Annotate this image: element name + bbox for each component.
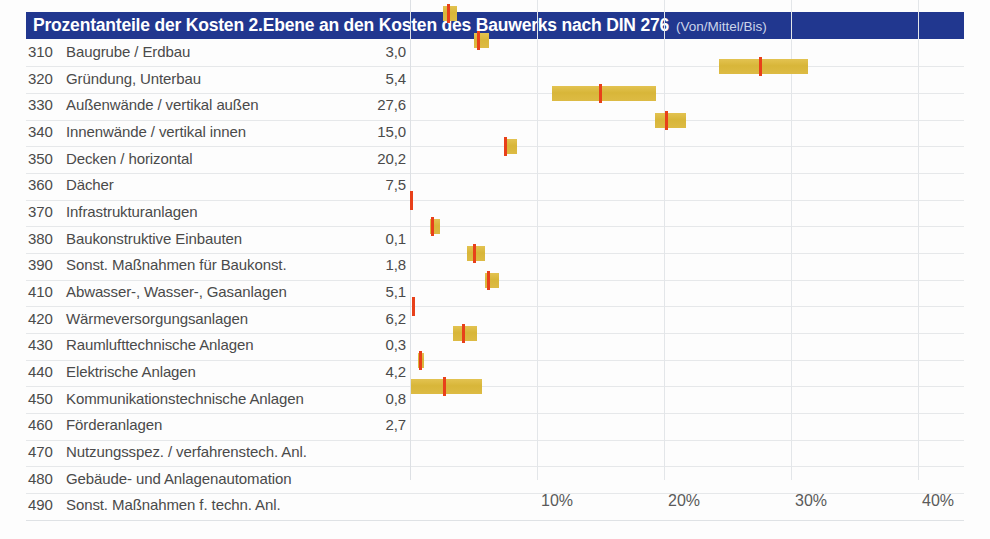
gridline-10 [537, 0, 538, 480]
row-label: Sonst. Maßnahmen f. techn. Anl. [66, 496, 281, 513]
axis-zero-line [410, 0, 411, 480]
mid-marker [410, 191, 413, 210]
gridline-20 [664, 0, 665, 480]
mid-marker [759, 57, 762, 76]
row-code: 430 [28, 336, 62, 353]
x-tick-label: 20% [668, 492, 700, 510]
range-bar [453, 326, 477, 341]
row-code: 350 [28, 150, 62, 167]
row-code: 460 [28, 416, 62, 433]
row-label: Nutzungsspez. / verfahrenstech. Anl. [66, 443, 307, 460]
plot-area [384, 0, 938, 480]
mid-marker [443, 377, 446, 396]
row-label: Wärmeversorgungsanlagen [66, 310, 248, 327]
row-code: 310 [28, 43, 62, 60]
row-label: Sonst. Maßnahmen für Baukonst. [66, 256, 286, 273]
row-code: 390 [28, 256, 62, 273]
mid-marker [487, 271, 490, 290]
mid-marker [419, 351, 422, 370]
row-code: 420 [28, 310, 62, 327]
row-code: 450 [28, 390, 62, 407]
range-bar [719, 59, 808, 74]
mid-marker [431, 217, 434, 236]
row-code: 320 [28, 70, 62, 87]
range-bar [474, 33, 489, 48]
row-code: 490 [28, 496, 62, 513]
row-label: Abwasser-, Wasser-, Gasanlagen [66, 283, 287, 300]
chart-page: Prozentanteile der Kosten 2.Ebene an den… [0, 0, 990, 539]
row-code: 330 [28, 96, 62, 113]
mid-marker [665, 111, 668, 130]
row-code: 440 [28, 363, 62, 380]
row-label: Förderanlagen [66, 416, 162, 433]
row-label: Innenwände / vertikal innen [66, 123, 246, 140]
x-tick-label: 10% [541, 492, 573, 510]
mid-marker [412, 297, 415, 316]
row-code: 480 [28, 470, 62, 487]
mid-marker [477, 31, 480, 50]
mid-marker [599, 84, 602, 103]
mid-marker [462, 324, 465, 343]
x-axis-labels: 10%20%30%40% [384, 492, 964, 520]
row-label: Dächer [66, 176, 114, 193]
row-label: Außenwände / vertikal außen [66, 96, 258, 113]
range-bar [655, 113, 685, 128]
row-label: Kommunikationstechnische Anlagen [66, 390, 304, 407]
gridline-40 [918, 0, 919, 480]
row-label: Baukonstruktive Einbauten [66, 230, 242, 247]
mid-marker [473, 244, 476, 263]
row-code: 360 [28, 176, 62, 193]
range-bar [552, 86, 656, 101]
row-code: 410 [28, 283, 62, 300]
range-bar [411, 379, 482, 394]
mid-marker [504, 137, 507, 156]
row-label: Gründung, Unterbau [66, 70, 201, 87]
row-code: 340 [28, 123, 62, 140]
row-label: Decken / horizontal [66, 150, 193, 167]
x-tick-label: 40% [922, 492, 954, 510]
row-label: Baugrube / Erdbau [66, 43, 190, 60]
x-tick-label: 30% [795, 492, 827, 510]
row-label: Elektrische Anlagen [66, 363, 196, 380]
mid-marker [447, 4, 450, 23]
row-code: 370 [28, 203, 62, 220]
row-code: 380 [28, 230, 62, 247]
row-label: Gebäude- und Anlagenautomation [66, 470, 292, 487]
row-label: Raumlufttechnische Anlagen [66, 336, 254, 353]
row-label: Infrastrukturanlagen [66, 203, 197, 220]
axis-baseline [26, 520, 964, 521]
range-bar [443, 6, 457, 21]
row-code: 470 [28, 443, 62, 460]
